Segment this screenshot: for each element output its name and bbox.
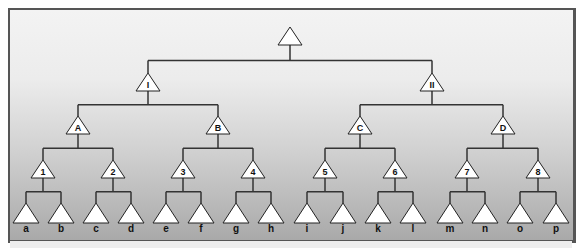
node-4-label: 4 (250, 167, 255, 177)
node-2-label: 2 (110, 167, 115, 177)
leaf-node-m (437, 203, 463, 223)
node-3-label: 3 (180, 167, 185, 177)
leaf-node-h (258, 203, 284, 223)
leaf-label-e: e (163, 223, 169, 234)
leaf-label-c: c (93, 223, 99, 234)
leaf-label-d: d (128, 223, 134, 234)
leaf-label-h: h (268, 223, 274, 234)
leaf-node-p (543, 203, 569, 223)
tree-diagram: IIIABCD12345678abcdefghijklmnop (0, 0, 584, 248)
leaf-label-m: m (446, 223, 455, 234)
node-8-label: 8 (535, 167, 540, 177)
leaf-node-k (365, 203, 391, 223)
leaf-node-g (223, 203, 249, 223)
leaf-label-f: f (199, 223, 203, 234)
node-1-label: 1 (40, 167, 45, 177)
node-7-label: 7 (464, 167, 469, 177)
leaf-label-o: o (517, 223, 523, 234)
leaf-node-i (294, 203, 320, 223)
leaf-label-a: a (23, 223, 29, 234)
leaf-label-k: k (375, 223, 381, 234)
leaf-node-c (83, 203, 109, 223)
node-a-label: A (75, 123, 82, 133)
leaf-node-f (188, 203, 214, 223)
leaf-label-g: g (233, 223, 239, 234)
node-d-label: D (500, 123, 507, 133)
leaf-label-b: b (58, 223, 64, 234)
leaf-node-b (48, 203, 74, 223)
node-6-label: 6 (392, 167, 397, 177)
node-c-label: C (357, 123, 364, 133)
leaf-node-j (330, 203, 356, 223)
leaf-node-a (13, 203, 39, 223)
leaf-node-l (400, 203, 426, 223)
leaf-node-d (118, 203, 144, 223)
leaf-label-j: j (341, 223, 345, 234)
node-i-label: I (147, 80, 150, 90)
leaf-label-l: l (412, 223, 415, 234)
leaf-label-n: n (482, 223, 488, 234)
node-b-label: B (215, 123, 222, 133)
leaf-node-n (472, 203, 498, 223)
root-node (278, 27, 302, 45)
leaf-node-e (153, 203, 179, 223)
leaf-label-i: i (306, 223, 309, 234)
leaf-node-o (507, 203, 533, 223)
node-ii-label: II (429, 80, 434, 90)
leaf-label-p: p (553, 223, 559, 234)
node-5-label: 5 (322, 167, 327, 177)
